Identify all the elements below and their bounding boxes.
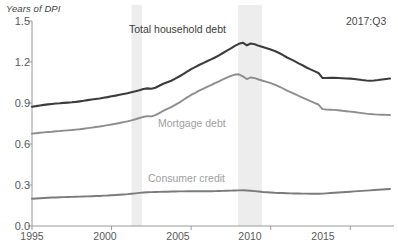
x-tick-label-2000: 2000	[83, 230, 127, 242]
y-tick-label-0-3: 0.3	[4, 179, 30, 191]
series-label-consumer-credit: Consumer credit	[148, 172, 225, 184]
y-tick-label-0-6: 0.6	[4, 138, 30, 150]
chart-container: Years of DPI 1.5 1.2 0.9 0.6 0.3 0.0 199…	[0, 0, 398, 245]
date-annotation: 2017:Q3	[346, 15, 386, 27]
y-tick-label-0-9: 0.9	[4, 97, 30, 109]
y-tick-label-1-2: 1.2	[4, 56, 30, 68]
series-label-total-household-debt: Total household debt	[129, 23, 226, 35]
x-tick-label-2005: 2005	[156, 230, 200, 242]
recession-band-recession-2008	[238, 5, 262, 226]
series-label-mortgage-debt: Mortgage debt	[158, 117, 226, 129]
series-line-total-household-debt	[32, 43, 390, 107]
x-tick-label-1995: 1995	[10, 230, 54, 242]
x-tick-label-2010: 2010	[228, 230, 272, 242]
x-tick-label-2015: 2015	[301, 230, 345, 242]
y-tick-label-1-5: 1.5	[4, 15, 30, 27]
series-line-consumer-credit	[32, 189, 390, 199]
